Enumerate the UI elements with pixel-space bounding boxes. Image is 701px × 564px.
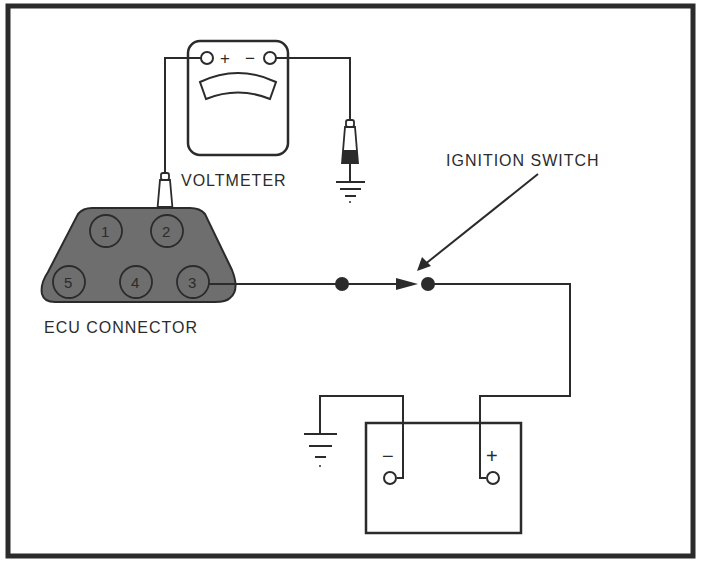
ignition-switch-contact-icon <box>396 278 418 290</box>
voltmeter-plus-symbol: + <box>220 49 231 68</box>
voltmeter: + − <box>188 41 288 155</box>
voltmeter-minus-symbol: − <box>245 49 256 68</box>
battery-negative-post <box>397 423 403 478</box>
svg-text:5: 5 <box>64 274 72 291</box>
svg-text:2: 2 <box>162 223 170 240</box>
battery-negative-symbol: − <box>382 445 395 467</box>
voltmeter-label: VOLTMETER <box>181 172 287 189</box>
voltmeter-positive-terminal <box>201 52 213 64</box>
wiring-diagram: + − VOLTMETER 1 2 5 <box>0 0 701 564</box>
battery-positive-symbol: + <box>486 445 499 467</box>
ignition-switch-label: IGNITION SWITCH <box>446 152 600 169</box>
svg-text:3: 3 <box>188 274 196 291</box>
voltmeter-ground-icon <box>336 182 365 203</box>
switch-to-battery-wire <box>428 284 570 427</box>
voltmeter-negative-terminal <box>264 52 276 64</box>
battery-negative-terminal <box>384 472 396 484</box>
battery-ground-wire <box>320 396 403 434</box>
svg-text:1: 1 <box>101 223 109 240</box>
ecu-connector: 1 2 5 4 3 <box>42 208 236 302</box>
ecu-connector-label: ECU CONNECTOR <box>44 319 198 336</box>
battery-positive-terminal <box>487 472 499 484</box>
battery: − + <box>366 423 521 533</box>
negative-probe-icon <box>342 120 358 182</box>
battery-ground-icon <box>304 434 337 467</box>
ignition-switch-arrow-icon <box>417 174 538 271</box>
svg-text:4: 4 <box>131 274 139 291</box>
